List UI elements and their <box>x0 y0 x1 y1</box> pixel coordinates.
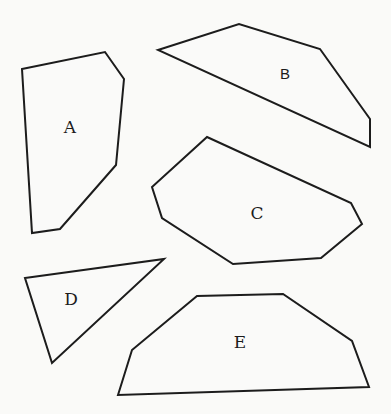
shapes-svg <box>0 0 391 414</box>
label-a: A <box>64 119 76 136</box>
label-c: C <box>250 205 263 222</box>
label-e: E <box>234 334 246 351</box>
label-d: D <box>64 291 78 308</box>
polygon-a <box>22 52 124 233</box>
label-b: B <box>280 66 290 81</box>
polygon-c <box>152 137 362 264</box>
shapes-diagram: A B C D E <box>0 0 391 414</box>
polygon-b <box>158 24 370 147</box>
